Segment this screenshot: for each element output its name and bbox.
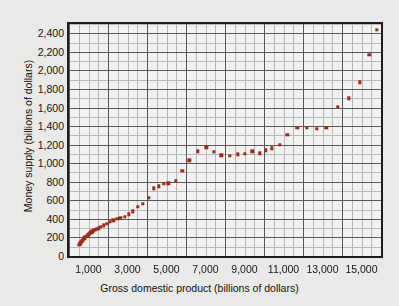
y-axis-tick-label: 1,400	[22, 121, 64, 131]
y-axis-tick-label: 2,400	[22, 28, 64, 38]
x-axis-tick-label: 11,000	[268, 263, 299, 275]
x-axis-tick-labels: 1,0003,0005,0007,0009,00011,00013,00015,…	[0, 263, 399, 279]
x-axis-tick-label: 3,000	[114, 263, 140, 275]
y-axis-tick-label: 1,800	[22, 84, 64, 94]
y-axis-tick-label: 800	[22, 177, 64, 187]
x-axis-tick-label: 15,000	[345, 263, 377, 275]
x-axis-tick-label: 9,000	[231, 263, 257, 275]
y-axis-tick-label: 600	[22, 195, 64, 205]
y-axis-tick-label: 200	[22, 232, 64, 242]
y-axis-tick-label: 1,600	[22, 103, 64, 113]
x-axis-tick-label: 13,000	[306, 263, 338, 275]
y-axis-tick-label: 1,000	[22, 158, 64, 168]
x-axis-title: Gross domestic product (billions of doll…	[0, 282, 399, 294]
chart-screenshot: Money supply (billions of dollars) 02004…	[0, 0, 399, 306]
y-axis-tick-label: 2,200	[22, 47, 64, 57]
gridlines	[69, 24, 381, 256]
y-axis-tick-label: 2,000	[22, 65, 64, 75]
y-axis-tick-label: 400	[22, 214, 64, 224]
x-axis-tick-label: 5,000	[153, 263, 179, 275]
y-axis-tick-label: 1,200	[22, 140, 64, 150]
x-axis-tick-label: 7,000	[192, 263, 218, 275]
y-axis-tick-label: 0	[22, 251, 64, 261]
plot-area	[67, 22, 383, 258]
y-axis-tick-labels: 02004006008001,0001,2001,4001,6001,8002,…	[16, 0, 64, 306]
x-axis-tick-label: 1,000	[75, 263, 101, 275]
